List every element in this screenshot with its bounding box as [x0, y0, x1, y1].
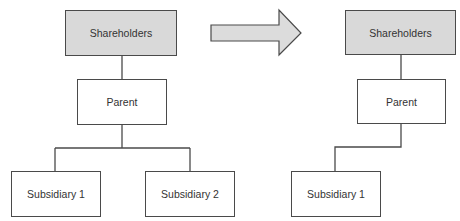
right-arrow-icon: [211, 10, 301, 55]
before-parent-label: Parent: [107, 96, 138, 108]
before-subsidiary2-label: Subsidiary 2: [161, 188, 219, 200]
before-shareholders-label: Shareholders: [90, 27, 152, 39]
diagram-canvas: Shareholders Parent Subsidiary 1 Subsidi…: [0, 0, 460, 221]
after-parent-label: Parent: [386, 96, 417, 108]
before-subsidiary1-label: Subsidiary 1: [27, 188, 85, 200]
after-subsidiary1-box: Subsidiary 1: [291, 171, 381, 217]
after-subsidiary1-label: Subsidiary 1: [307, 188, 365, 200]
before-shareholders-box: Shareholders: [65, 10, 177, 56]
before-subsidiary2-box: Subsidiary 2: [145, 171, 235, 217]
before-parent-box: Parent: [77, 79, 167, 125]
after-shareholders-box: Shareholders: [345, 10, 456, 55]
before-subsidiary1-box: Subsidiary 1: [11, 171, 101, 217]
after-shareholders-label: Shareholders: [369, 27, 431, 39]
edge-after-parent-subsidiary1: [335, 124, 401, 171]
after-parent-box: Parent: [357, 79, 446, 124]
